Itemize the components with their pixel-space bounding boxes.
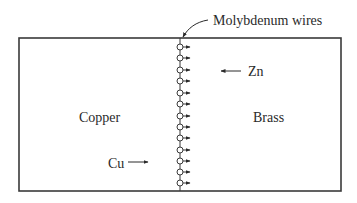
- wire-marker: [177, 180, 190, 186]
- wire-circle-icon: [177, 44, 183, 50]
- brass-region-label: Brass: [253, 110, 284, 125]
- wire-marker: [177, 101, 190, 107]
- wire-marker: [177, 55, 190, 61]
- wire-circle-icon: [177, 147, 183, 153]
- wire-marker: [177, 90, 190, 96]
- wire-circle-icon: [177, 78, 183, 84]
- wire-marker: [177, 158, 190, 164]
- wire-marker: [177, 44, 190, 50]
- wire-circle-icon: [177, 180, 183, 186]
- callout-arrow-icon: [183, 20, 208, 37]
- wire-circle-icon: [177, 113, 183, 119]
- wire-marker: [177, 135, 190, 141]
- wire-marker: [177, 67, 190, 73]
- wire-circle-icon: [177, 90, 183, 96]
- copper-region-label: Copper: [79, 110, 121, 125]
- cu-flux-label: Cu: [108, 156, 124, 171]
- wire-circle-icon: [177, 124, 183, 130]
- wire-circle-icon: [177, 55, 183, 61]
- kirkendall-diagram: Molybdenum wires Copper Brass Zn Cu: [0, 0, 357, 203]
- wire-marker: [177, 78, 190, 84]
- wire-circle-icon: [177, 169, 183, 175]
- wire-marker: [177, 147, 190, 153]
- wire-circle-icon: [177, 135, 183, 141]
- wire-marker: [177, 124, 190, 130]
- wire-circle-icon: [177, 101, 183, 107]
- molybdenum-wires-label: Molybdenum wires: [213, 13, 322, 28]
- molybdenum-wire-markers: [177, 44, 190, 186]
- wire-marker: [177, 113, 190, 119]
- zn-flux-label: Zn: [248, 64, 264, 79]
- wire-circle-icon: [177, 67, 183, 73]
- wire-circle-icon: [177, 158, 183, 164]
- wire-marker: [177, 169, 190, 175]
